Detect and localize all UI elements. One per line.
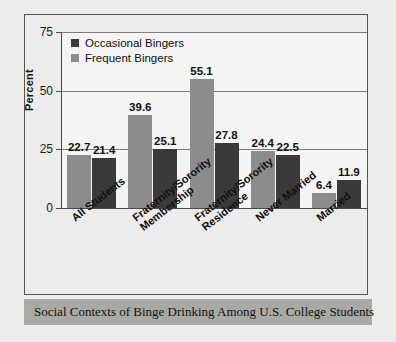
chart-frame: 0255075 Percent Occasional Bingers Frequ…: [24, 14, 368, 295]
bar-value-label: 22.5: [271, 141, 305, 153]
legend-label-occasional: Occasional Bingers: [85, 37, 184, 49]
legend-item-occasional: Occasional Bingers: [71, 37, 184, 49]
gridline: [61, 91, 367, 92]
figure-caption: Social Contexts of Binge Drinking Among …: [24, 304, 374, 320]
caption-band: Social Contexts of Binge Drinking Among …: [24, 299, 372, 325]
y-tick-mark: [56, 208, 61, 209]
legend-swatch-occasional: [71, 39, 79, 47]
bar: [128, 115, 152, 208]
y-tick-label: 0: [25, 201, 53, 215]
figure-container: 0255075 Percent Occasional Bingers Frequ…: [0, 0, 396, 342]
legend-label-frequent: Frequent Bingers: [85, 52, 173, 64]
bar-value-label: 21.4: [87, 144, 121, 156]
chart-legend: Occasional Bingers Frequent Bingers: [71, 37, 184, 67]
bar-value-label: 39.6: [123, 101, 157, 113]
gridline: [61, 32, 367, 33]
y-axis-label: Percent: [23, 69, 35, 111]
legend-item-frequent: Frequent Bingers: [71, 52, 184, 64]
y-tick-mark: [56, 149, 61, 150]
legend-swatch-frequent: [71, 54, 79, 62]
y-tick-mark: [56, 91, 61, 92]
y-axis: [61, 32, 62, 209]
y-tick-label: 25: [25, 142, 53, 156]
y-tick-label: 75: [25, 25, 53, 39]
bar-value-label: 11.9: [332, 166, 366, 178]
bar-value-label: 27.8: [210, 129, 244, 141]
bar-value-label: 55.1: [185, 65, 219, 77]
y-tick-mark: [56, 32, 61, 33]
bar-value-label: 25.1: [148, 135, 182, 147]
